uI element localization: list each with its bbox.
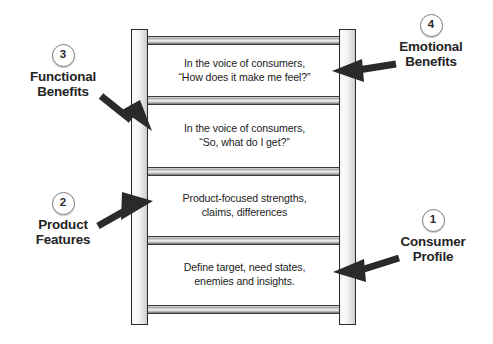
ladder-rail-left — [131, 29, 148, 325]
step-panel-emotional-benefits[interactable]: In the voice of consumers, “How does it … — [140, 45, 349, 96]
ladder-rung-4 — [140, 96, 349, 105]
callout-number-4: 4 — [420, 14, 443, 37]
callout-number-1: 1 — [422, 209, 445, 232]
callout-functional-benefits[interactable]: 3 Functional Benefits — [4, 44, 122, 100]
callout-label-product-features: Product Features — [4, 217, 122, 248]
ladder-rung-5 — [140, 36, 349, 45]
ladder-rail-right — [339, 29, 356, 325]
callout-label-consumer-profile: Consumer Profile — [374, 234, 492, 265]
callout-emotional-benefits[interactable]: 4 Emotional Benefits — [372, 14, 490, 70]
step-text-emotional-benefits: In the voice of consumers, “How does it … — [172, 57, 316, 84]
callout-number-3: 3 — [52, 44, 75, 67]
callout-consumer-profile[interactable]: 1 Consumer Profile — [374, 209, 492, 265]
step-panel-functional-benefits[interactable]: In the voice of consumers, “So, what do … — [140, 104, 349, 167]
step-text-product-features: Product-focused strengths, claims, diffe… — [176, 192, 312, 219]
ladder-rung-2 — [140, 236, 349, 245]
callout-number-2: 2 — [52, 192, 75, 215]
step-panel-consumer-profile[interactable]: Define target, need states, enemies and … — [140, 244, 349, 305]
step-text-consumer-profile: Define target, need states, enemies and … — [178, 261, 312, 288]
ladder-diagram: In the voice of consumers, “How does it … — [0, 0, 493, 344]
step-panel-product-features[interactable]: Product-focused strengths, claims, diffe… — [140, 175, 349, 236]
ladder-rung-3 — [140, 167, 349, 176]
callout-label-functional-benefits: Functional Benefits — [4, 69, 122, 100]
ladder-rung-1 — [140, 305, 349, 314]
callout-product-features[interactable]: 2 Product Features — [4, 192, 122, 248]
callout-label-emotional-benefits: Emotional Benefits — [372, 39, 490, 70]
step-text-functional-benefits: In the voice of consumers, “So, what do … — [178, 122, 311, 149]
